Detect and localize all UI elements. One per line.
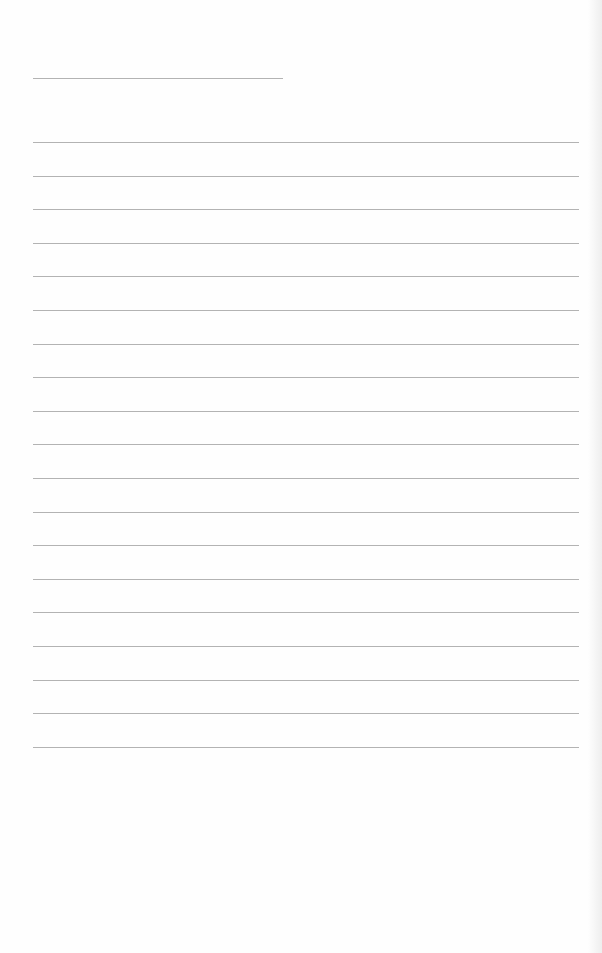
writing-line [33, 176, 579, 177]
writing-line [33, 310, 579, 311]
writing-line [33, 512, 579, 513]
writing-line [33, 612, 579, 613]
writing-line [33, 747, 579, 748]
writing-line [33, 344, 579, 345]
writing-line [33, 142, 579, 143]
writing-line [33, 377, 579, 378]
writing-line [33, 713, 579, 714]
writing-line [33, 243, 579, 244]
writing-line [33, 444, 579, 445]
lined-paper-page [0, 0, 602, 953]
writing-line [33, 411, 579, 412]
writing-line [33, 276, 579, 277]
writing-line [33, 579, 579, 580]
page-edge-shadow [588, 0, 602, 953]
writing-line [33, 680, 579, 681]
title-rule [33, 78, 283, 79]
writing-line [33, 545, 579, 546]
writing-line [33, 478, 579, 479]
writing-line [33, 646, 579, 647]
writing-line [33, 209, 579, 210]
